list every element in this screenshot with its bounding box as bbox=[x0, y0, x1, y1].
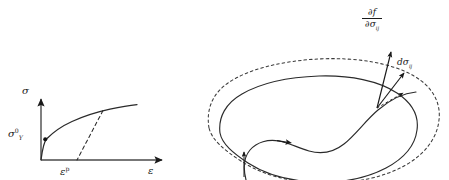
gradient-denominator-base: ∂σ bbox=[365, 19, 376, 29]
yield-point-dot bbox=[43, 137, 47, 141]
yield-stress-superscript: 0 bbox=[15, 127, 19, 134]
stress-path-curve bbox=[244, 92, 416, 180]
projection-vector bbox=[377, 93, 403, 108]
gradient-denominator-subscript: ij bbox=[376, 25, 379, 31]
stress-increment-label: dσij bbox=[397, 58, 412, 69]
gradient-vector-label: ∂f ∂σij bbox=[362, 8, 382, 31]
expanded-yield-surface bbox=[208, 59, 439, 180]
stress-increment-subscript: ij bbox=[409, 63, 412, 69]
stress-increment-base: dσ bbox=[397, 57, 409, 67]
gradient-numerator: ∂f bbox=[365, 8, 379, 18]
plasticity-figure: σ σ0Y εp ε ∂f ∂σij dσij bbox=[0, 0, 449, 180]
initial-yield-surface bbox=[220, 76, 418, 180]
gradient-denominator: ∂σij bbox=[362, 19, 382, 31]
yield-stress-subscript: Y bbox=[19, 134, 23, 141]
strain-axis-label: ε bbox=[148, 166, 153, 176]
yield-stress-label: σ0Y bbox=[8, 128, 23, 142]
hardening-curve bbox=[41, 105, 137, 160]
plastic-strain-superscript: p bbox=[65, 165, 69, 172]
right-panel-group bbox=[208, 52, 439, 180]
left-panel-group bbox=[41, 99, 162, 160]
yield-stress-base: σ bbox=[8, 128, 15, 139]
plastic-strain-label: εp bbox=[60, 166, 69, 177]
stress-axis-label: σ bbox=[22, 86, 29, 96]
